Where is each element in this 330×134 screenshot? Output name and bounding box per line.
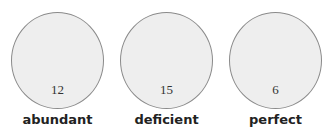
label-abundant: abundant [11, 112, 104, 127]
label-perfect: perfect [229, 112, 322, 127]
set-perfect: 6 perfect [229, 12, 324, 127]
set-deficient: 15 deficient [120, 12, 215, 127]
count-abundant: 12 [12, 82, 103, 98]
circle-deficient: 15 [120, 12, 213, 109]
circle-perfect: 6 [229, 12, 322, 109]
circle-abundant: 12 [11, 12, 104, 109]
set-abundant: 12 abundant [11, 12, 106, 127]
label-deficient: deficient [120, 112, 213, 127]
count-deficient: 15 [121, 82, 212, 98]
count-perfect: 6 [230, 82, 321, 98]
